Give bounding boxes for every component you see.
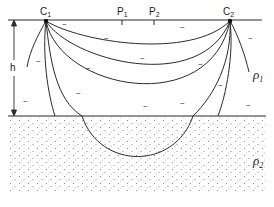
electrode-p1-label: P1 xyxy=(117,6,128,18)
svg-text:~: ~ xyxy=(86,64,91,73)
svg-text:~: ~ xyxy=(218,81,223,90)
diagram-canvas: C1 C2 P1 P2 h ρ1 ρ2 ~ ~ ~ ~ ~ ~ ~ ~ ~ ~ … xyxy=(0,0,274,207)
electrode-c2-dot xyxy=(228,19,232,23)
svg-text:~: ~ xyxy=(248,34,253,43)
svg-text:~: ~ xyxy=(246,101,251,110)
thickness-label: h xyxy=(10,62,16,73)
svg-text:~: ~ xyxy=(143,102,148,111)
rho1-label: ρ1 xyxy=(252,67,263,84)
electrode-p2-label: P2 xyxy=(149,6,160,18)
svg-text:~: ~ xyxy=(180,23,185,32)
svg-text:~: ~ xyxy=(180,99,185,108)
svg-text:~: ~ xyxy=(62,20,67,29)
electrode-c2-label: C2 xyxy=(223,6,234,18)
svg-text:~: ~ xyxy=(23,97,28,106)
svg-text:~: ~ xyxy=(140,54,145,63)
lower-layer-region xyxy=(8,117,266,193)
svg-text:~: ~ xyxy=(36,57,41,66)
svg-text:~: ~ xyxy=(198,60,203,69)
svg-text:~: ~ xyxy=(104,34,109,43)
electrode-c1-dot xyxy=(44,19,48,23)
two-layer-earth-diagram: C1 C2 P1 P2 h ρ1 ρ2 ~ ~ ~ ~ ~ ~ ~ ~ ~ ~ … xyxy=(0,0,274,207)
electrode-c1-label: C1 xyxy=(40,6,51,18)
svg-text:~: ~ xyxy=(76,89,81,98)
